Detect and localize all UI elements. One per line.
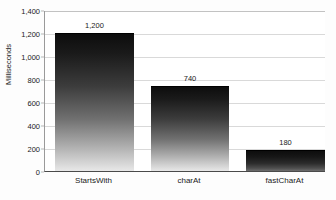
bar-fastcharat[interactable] bbox=[246, 150, 325, 171]
plot-area: 1,200 740 180 bbox=[44, 11, 325, 172]
y-tick-label: 0 bbox=[12, 168, 40, 177]
y-tick-label: 1,400 bbox=[12, 7, 40, 16]
bar-chart: Milliseconds 1,400 1,200 1,000 800 600 4… bbox=[0, 0, 336, 200]
x-axis-category-labels: StartsWith charAt fastCharAt bbox=[44, 176, 325, 192]
x-cat-label-startswith: StartsWith bbox=[54, 176, 133, 185]
y-axis-tick-labels: 1,400 1,200 1,000 800 600 400 200 0 bbox=[12, 0, 40, 200]
bar-value-label-fastcharat: 180 bbox=[246, 138, 325, 147]
x-cat-label-fastcharat: fastCharAt bbox=[245, 176, 324, 185]
y-tick-label: 800 bbox=[12, 76, 40, 85]
y-tick-label: 400 bbox=[12, 122, 40, 131]
bar-value-label-startswith: 1,200 bbox=[55, 21, 134, 30]
y-tick-label: 1,200 bbox=[12, 30, 40, 39]
x-cat-label-charat: charAt bbox=[150, 176, 228, 185]
bar-startswith[interactable] bbox=[55, 33, 134, 171]
y-tick-label: 600 bbox=[12, 99, 40, 108]
bars-layer bbox=[45, 11, 325, 171]
bar-value-label-charat: 740 bbox=[151, 74, 229, 83]
bar-charat[interactable] bbox=[151, 86, 229, 171]
y-tick-label: 1,000 bbox=[12, 53, 40, 62]
y-tick-label: 200 bbox=[12, 145, 40, 154]
